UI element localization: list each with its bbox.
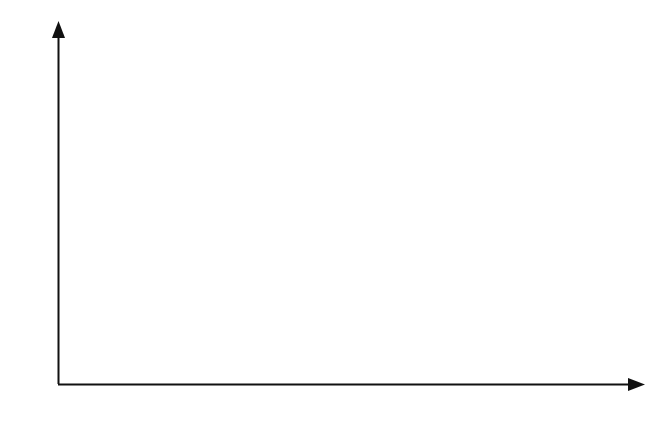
density-curve-plot [0,0,653,440]
probability-density-figure [0,0,653,440]
x-axis-arrowhead [628,378,645,391]
y-axis-arrowhead [52,21,65,38]
